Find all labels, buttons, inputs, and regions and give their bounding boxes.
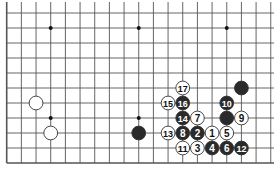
stone-number: 8 [180, 128, 186, 139]
stone-black [235, 81, 249, 95]
star-point [225, 26, 229, 30]
stone-number: 1 [209, 128, 215, 139]
star-point [137, 26, 141, 30]
numbered-stone-5: 5 [220, 126, 234, 140]
numbered-stone-9: 9 [235, 111, 249, 125]
stone-number: 9 [239, 113, 245, 124]
stone-number: 15 [163, 99, 173, 109]
stone-black [220, 111, 234, 125]
stone-number: 11 [178, 144, 188, 154]
black-stone-icon [132, 126, 146, 140]
numbered-stone-14: 14 [176, 111, 190, 125]
stone-number: 14 [178, 114, 188, 124]
numbered-stone-1: 1 [205, 126, 219, 140]
stone-number: 10 [222, 99, 232, 109]
numbered-stone-4: 4 [205, 141, 219, 155]
go-board: 1715161014791382151134612 [0, 0, 274, 174]
star-point [49, 116, 53, 120]
numbered-stone-15: 15 [161, 96, 175, 110]
stone-number: 3 [195, 143, 201, 154]
numbered-stone-7: 7 [191, 111, 205, 125]
stone-white [44, 126, 58, 140]
stone-number: 17 [178, 84, 188, 94]
stone-number: 6 [224, 143, 230, 154]
star-point [49, 26, 53, 30]
stone-number: 4 [209, 143, 215, 154]
stone-number: 13 [163, 129, 173, 139]
numbered-stone-11: 11 [176, 141, 190, 155]
stone-number: 2 [195, 128, 201, 139]
numbered-stone-10: 10 [220, 96, 234, 110]
stone-number: 5 [224, 128, 230, 139]
star-point [137, 116, 141, 120]
stone-number: 7 [195, 113, 201, 124]
numbered-stone-16: 16 [176, 96, 190, 110]
stone-number: 16 [178, 99, 188, 109]
black-stone-icon [235, 81, 249, 95]
stone-white [29, 96, 43, 110]
numbered-stone-8: 8 [176, 126, 190, 140]
numbered-stone-12: 12 [235, 141, 249, 155]
black-stone-icon [220, 111, 234, 125]
numbered-stone-13: 13 [161, 126, 175, 140]
numbered-stone-3: 3 [191, 141, 205, 155]
stone-number: 12 [236, 144, 246, 154]
stone-black [132, 126, 146, 140]
white-stone-icon [44, 126, 58, 140]
white-stone-icon [29, 96, 43, 110]
numbered-stone-17: 17 [176, 81, 190, 95]
numbered-stone-2: 2 [191, 126, 205, 140]
numbered-stone-6: 6 [220, 141, 234, 155]
